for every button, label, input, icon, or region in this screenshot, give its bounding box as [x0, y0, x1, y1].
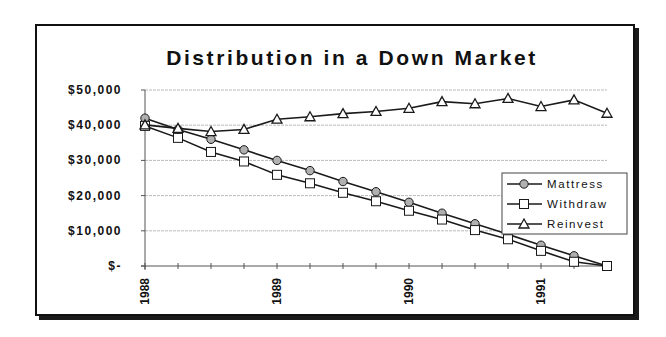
x-tick-label: 1988 — [138, 278, 152, 305]
series-reinvest — [140, 93, 612, 135]
y-tick-label: $10,000 — [68, 224, 122, 238]
square-marker-icon — [570, 257, 579, 266]
circle-marker-icon — [372, 188, 380, 196]
square-marker-icon — [306, 179, 315, 188]
y-tick-label: $30,000 — [68, 153, 122, 167]
x-tick-label: 1991 — [534, 278, 548, 305]
square-marker-icon — [504, 235, 513, 244]
square-marker-icon — [273, 170, 282, 179]
circle-marker-icon — [207, 135, 215, 143]
x-tick-label: 1989 — [270, 278, 284, 305]
legend-label: Mattress — [547, 178, 604, 190]
circle-marker-icon — [273, 156, 281, 164]
triangle-marker-icon — [503, 93, 513, 102]
square-marker-icon — [240, 157, 249, 166]
y-tick-label: $- — [108, 259, 122, 273]
triangle-marker-icon — [569, 95, 579, 104]
legend-item-withdraw: Withdraw — [507, 198, 608, 210]
circle-marker-icon — [339, 177, 347, 185]
circle-marker-icon — [240, 146, 248, 154]
legend: MattressWithdrawReinvest — [502, 173, 627, 234]
square-marker-icon — [471, 226, 480, 235]
square-marker-icon — [405, 206, 414, 215]
square-marker-icon — [438, 215, 447, 224]
square-marker-icon — [603, 262, 612, 271]
circle-marker-icon — [405, 198, 413, 206]
circle-marker-icon — [306, 166, 314, 174]
x-axis-labels: 1988198919901991 — [138, 278, 548, 305]
square-marker-icon — [339, 188, 348, 197]
square-marker-icon — [537, 246, 546, 255]
y-tick-label: $20,000 — [68, 189, 122, 203]
legend-label: Reinvest — [547, 218, 605, 230]
square-marker-icon — [174, 133, 183, 142]
chart-title: Distribution in a Down Market — [166, 46, 538, 69]
legend-label: Withdraw — [547, 198, 608, 210]
triangle-marker-icon — [602, 108, 612, 117]
circle-marker-icon — [520, 180, 528, 188]
square-marker-icon — [520, 200, 529, 209]
y-tick-label: $50,000 — [68, 83, 122, 97]
square-marker-icon — [372, 197, 381, 206]
x-tick-label: 1990 — [402, 278, 416, 305]
line-chart: Distribution in a Down Market $50,000$40… — [0, 0, 666, 337]
y-tick-label: $40,000 — [68, 118, 122, 132]
y-axis-labels: $50,000$40,000$30,000$20,000$10,000$- — [68, 83, 122, 273]
square-marker-icon — [207, 147, 216, 156]
